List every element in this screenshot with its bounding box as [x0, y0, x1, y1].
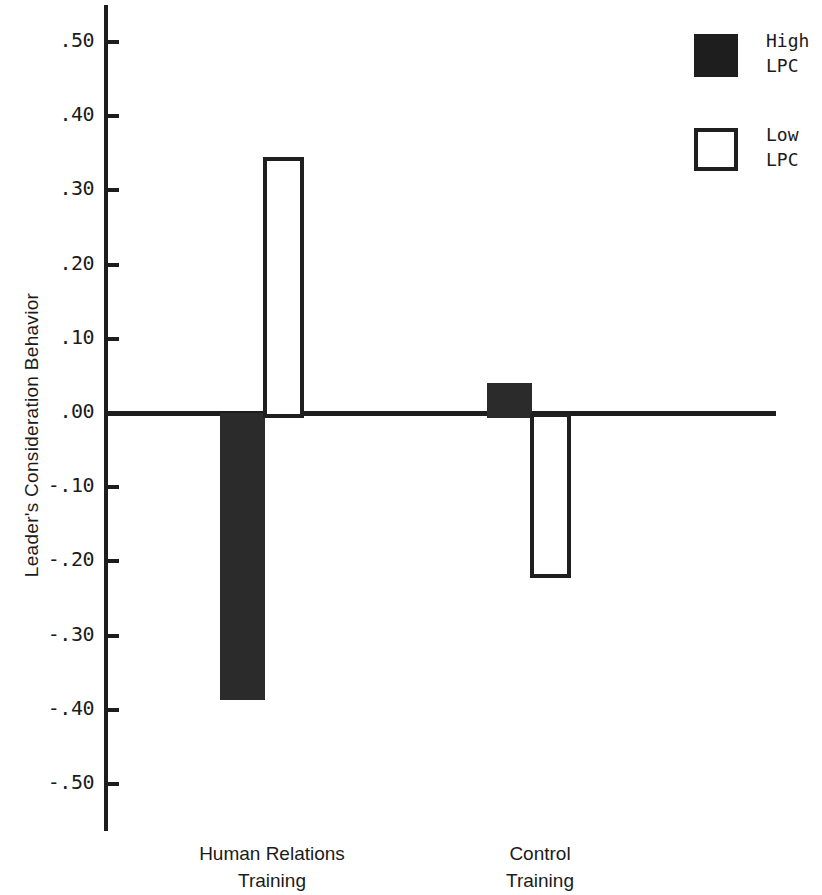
y-tick-label: -.30	[14, 622, 94, 646]
y-tick-mark	[108, 708, 119, 712]
y-tick-mark	[108, 114, 119, 118]
bar-chart-figure: Leader's Consideration Behavior .50.40.3…	[0, 0, 822, 895]
category-label-2: Control Training	[440, 840, 640, 894]
legend-label-1: High LPC	[766, 28, 809, 78]
y-tick-label: .30	[14, 176, 94, 200]
legend-swatch-high-lpc	[694, 34, 738, 77]
bar-high-lpc-group-1	[220, 413, 265, 700]
y-tick-label: -.50	[14, 770, 94, 794]
y-tick-mark	[108, 337, 119, 341]
y-tick-label: .10	[14, 325, 94, 349]
zero-baseline	[104, 411, 776, 416]
y-tick-label: -.20	[14, 547, 94, 571]
y-tick-label: .00	[14, 399, 94, 423]
bar-high-lpc-group-2	[487, 383, 532, 418]
bar-low-lpc-group-1	[263, 157, 304, 418]
legend-entry-2: Low LPC	[690, 122, 820, 174]
y-tick-mark	[108, 782, 119, 786]
y-tick-label: -.10	[14, 473, 94, 497]
y-tick-mark	[108, 188, 119, 192]
legend-swatch-low-lpc	[694, 128, 738, 171]
y-tick-mark	[108, 40, 119, 44]
y-tick-label: .50	[14, 28, 94, 52]
y-tick-mark	[108, 263, 119, 267]
bar-low-lpc-group-2	[530, 413, 571, 578]
y-tick-mark	[108, 634, 119, 638]
y-tick-label: .20	[14, 251, 94, 275]
y-tick-mark	[108, 559, 119, 563]
y-tick-label: -.40	[14, 696, 94, 720]
legend-label-2: Low LPC	[766, 122, 799, 172]
y-tick-mark	[108, 485, 119, 489]
category-label-1: Human Relations Training	[152, 840, 392, 894]
y-tick-label: .40	[14, 102, 94, 126]
legend-entry-1: High LPC	[690, 28, 820, 80]
